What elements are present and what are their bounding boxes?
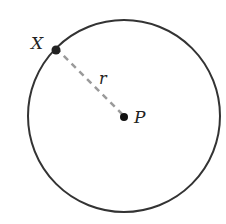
radius-label: r <box>99 69 108 88</box>
center-p-dot <box>120 113 128 121</box>
circle-diagram: X r P <box>0 0 226 224</box>
radius-segment <box>56 48 122 114</box>
point-x-dot <box>52 46 61 55</box>
point-x-label: X <box>29 33 44 53</box>
center-p-label: P <box>133 107 146 127</box>
